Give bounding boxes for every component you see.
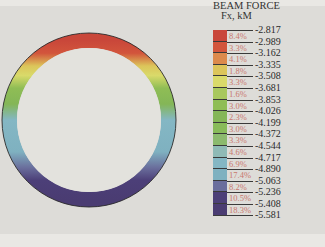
legend-value: -4.372 xyxy=(255,129,281,139)
legend-tick xyxy=(227,192,253,193)
swatch xyxy=(213,30,227,42)
legend-tick xyxy=(227,111,253,112)
swatch xyxy=(213,146,227,158)
legend-percent: 17.4% xyxy=(229,170,251,180)
legend-value: -5.063 xyxy=(255,176,281,186)
legend-percent: 3.3% xyxy=(229,43,247,53)
legend-value: -3.681 xyxy=(255,83,281,93)
legend-percent: 4.1% xyxy=(229,54,247,64)
legend-percent: 10.5% xyxy=(229,193,251,203)
legend-value: -3.162 xyxy=(255,48,281,58)
legend-value: -4.199 xyxy=(255,118,281,128)
legend-tick xyxy=(227,100,253,101)
legend-value: -2.989 xyxy=(255,37,281,47)
swatch xyxy=(213,100,227,112)
legend-tick xyxy=(227,146,253,147)
legend-value: -3.853 xyxy=(255,95,281,105)
legend-percent: 18.3% xyxy=(229,205,251,215)
legend-percent: 1.8% xyxy=(229,66,247,76)
legend-tick xyxy=(227,134,253,135)
legend-title: BEAM FORCE Fx, kM xyxy=(213,1,280,21)
legend-value: -3.508 xyxy=(255,71,281,81)
legend-percent: 3.0% xyxy=(229,124,247,134)
legend-tick xyxy=(227,65,253,66)
legend-tick xyxy=(227,76,253,77)
swatch xyxy=(213,53,227,65)
legend-value: -4.717 xyxy=(255,153,281,163)
swatch xyxy=(213,88,227,100)
legend-percent: 3.0% xyxy=(229,101,247,111)
legend-percent: 2.3% xyxy=(229,112,247,122)
legend-value: -4.026 xyxy=(255,106,281,116)
swatch xyxy=(213,42,227,54)
legend-percent: 4.6% xyxy=(229,147,247,157)
legend-percent: 3.3% xyxy=(229,77,247,87)
legend-tick xyxy=(227,169,253,170)
legend-value: -3.335 xyxy=(255,60,281,70)
legend-percent: 3.3% xyxy=(229,135,247,145)
legend-percent: 6.9% xyxy=(229,159,247,169)
swatch xyxy=(213,158,227,170)
swatch xyxy=(213,204,227,216)
swatch xyxy=(213,169,227,181)
legend-tick xyxy=(227,215,253,216)
legend-tick xyxy=(227,204,253,205)
legend-tick xyxy=(227,158,253,159)
legend-unit: Fx, kM xyxy=(213,11,280,21)
legend-percent: 8.2% xyxy=(229,182,247,192)
swatch xyxy=(213,65,227,77)
legend-colorbar xyxy=(213,30,227,216)
swatch xyxy=(213,123,227,135)
swatch xyxy=(213,111,227,123)
swatch xyxy=(213,192,227,204)
legend-tick xyxy=(227,30,253,31)
legend-percent: 8.4% xyxy=(229,31,247,41)
swatch xyxy=(213,181,227,193)
swatch xyxy=(213,134,227,146)
legend-value: -5.236 xyxy=(255,187,281,197)
legend-value: -2.817 xyxy=(255,25,281,35)
legend-tick xyxy=(227,123,253,124)
legend-value: -4.890 xyxy=(255,164,281,174)
legend-tick xyxy=(227,181,253,182)
legend-value: -4.544 xyxy=(255,141,281,151)
swatch xyxy=(213,76,227,88)
legend-tick xyxy=(227,42,253,43)
legend-value: -5.408 xyxy=(255,199,281,209)
legend-value: -5.581 xyxy=(255,210,281,220)
legend-tick xyxy=(227,53,253,54)
legend-percent: 1.6% xyxy=(229,89,247,99)
ring-contour xyxy=(0,6,210,234)
legend-tick xyxy=(227,88,253,89)
